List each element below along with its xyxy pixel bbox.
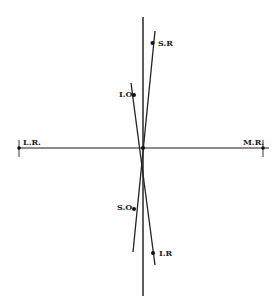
lateral-rectus-label: L.R. [23,137,41,147]
superior-rectus-dot [151,41,155,45]
superior-inferior-rectus-line [133,31,155,252]
lateral-rectus-dot [17,146,21,150]
superior-oblique-label: S.O. [117,202,135,212]
center-point [141,146,145,150]
inferior-oblique-label: I.O. [119,89,135,99]
medial-rectus-label: M.R. [243,137,264,147]
inferior-rectus-dot [151,251,155,255]
inferior-rectus-label: I.R [159,248,173,258]
eye-muscle-action-diagram: L.R. M.R. S.R I.O. S.O. I.R [0,0,278,306]
superior-rectus-label: S.R [158,38,173,48]
